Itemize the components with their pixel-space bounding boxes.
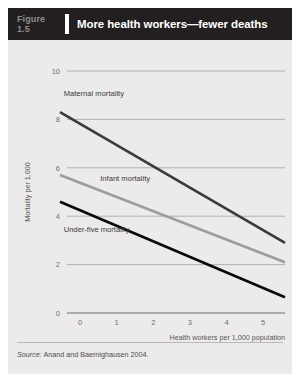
x-tick-label: 1	[115, 318, 119, 327]
x-tick-label: 3	[188, 318, 192, 327]
figure-footer: Source: Anand and Baernighausen 2004.	[8, 342, 292, 374]
figure-header: Figure 1.5 More health workers—fewer dea…	[8, 8, 292, 40]
x-tick-label: 4	[224, 318, 228, 327]
series-label-maternal-mortality: Maternal mortality	[64, 89, 125, 98]
y-tick-label: 0	[56, 309, 60, 318]
x-axis-title: Health workers per 1,000 population	[170, 333, 285, 342]
source-label: Source:	[17, 350, 42, 359]
source-citation: Anand and Baernighausen 2004.	[43, 350, 148, 359]
y-tick-label: 6	[56, 164, 60, 173]
y-axis-title: Mortality per 1,000	[23, 162, 32, 222]
y-tick-label: 4	[56, 212, 60, 221]
series-labels: Maternal mortalityInfant mortalityUnder-…	[64, 89, 151, 234]
x-axis-ticks: 012345	[78, 318, 265, 327]
figure-title: More health workers—fewer deaths	[77, 18, 267, 30]
series-label-infant-mortality: Infant mortality	[100, 174, 150, 183]
header-divider	[65, 14, 69, 34]
y-tick-label: 10	[52, 67, 60, 76]
chart-plot-area: 0246810 012345 Maternal mortalityInfant …	[8, 40, 292, 342]
series-line-maternal-mortality	[60, 112, 285, 243]
y-tick-label: 2	[56, 260, 60, 269]
series-label-under-five-mortality: Under-five mortality	[64, 225, 130, 234]
series-lines	[60, 112, 285, 297]
gridlines	[67, 71, 285, 265]
x-tick-label: 2	[151, 318, 155, 327]
x-tick-label: 5	[261, 318, 265, 327]
x-tick-label: 0	[78, 318, 82, 327]
figure-number-label: Figure	[17, 14, 45, 24]
figure-number-block: Figure 1.5	[17, 14, 65, 34]
y-axis-ticks: 0246810	[52, 67, 60, 318]
figure-card: Figure 1.5 More health workers—fewer dea…	[8, 8, 292, 374]
source-note: Source: Anand and Baernighausen 2004.	[17, 350, 149, 359]
y-tick-label: 8	[56, 115, 60, 124]
figure-number-value: 1.5	[17, 24, 65, 34]
source-divider	[17, 342, 283, 343]
line-chart: 0246810 012345 Maternal mortalityInfant …	[8, 40, 292, 342]
